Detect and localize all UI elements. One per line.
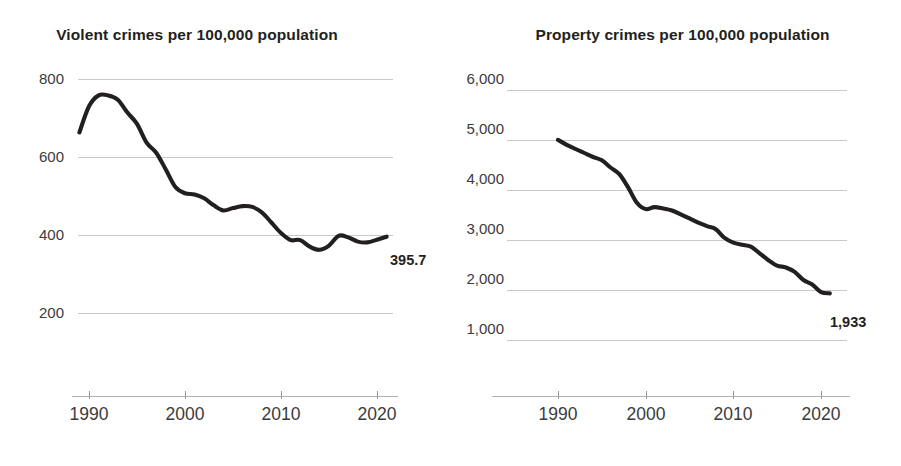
violent-crimes-plot: 800 600 400 200 1990 2000 2010 2020 395.… [0,0,450,466]
ytick-labels-violent: 800 600 400 200 [39,70,64,321]
gridlines-property [507,90,847,340]
xtick-label-2020: 2020 [802,404,841,424]
panel-violent-crimes: Violent crimes per 100,000 population 80… [0,0,450,466]
xtick-label-1990: 1990 [539,404,578,424]
violent-crime-line [79,94,386,249]
xtick-label-2000: 2000 [627,404,666,424]
xtick-label-2000: 2000 [166,404,205,424]
ytick-label-3000: 3,000 [466,220,504,237]
ytick-label-6000: 6,000 [466,70,504,87]
ytick-label-5000: 5,000 [466,120,504,137]
property-crimes-plot: 6,000 5,000 4,000 3,000 2,000 1,000 1990… [450,0,901,466]
xtick-label-1990: 1990 [70,404,109,424]
ytick-label-200: 200 [39,304,64,321]
ytick-label-800: 800 [39,70,64,87]
xtick-label-2020: 2020 [358,404,397,424]
ytick-labels-property: 6,000 5,000 4,000 3,000 2,000 1,000 [466,70,504,337]
xaxis-violent [72,391,398,399]
xtick-labels-violent: 1990 2000 2010 2020 [70,404,397,424]
ytick-label-4000: 4,000 [466,170,504,187]
ytick-label-600: 600 [39,148,64,165]
panel-property-crimes: Property crimes per 100,000 population 6… [450,0,901,466]
endpoint-label-violent: 395.7 [390,252,426,268]
xtick-label-2010: 2010 [714,404,753,424]
property-crime-line [558,140,830,294]
crime-rate-figure: Violent crimes per 100,000 population 80… [0,0,901,466]
ytick-label-400: 400 [39,226,64,243]
endpoint-label-property: 1,933 [830,314,866,330]
gridlines-violent [78,79,393,313]
xtick-label-2010: 2010 [262,404,301,424]
xtick-labels-property: 1990 2000 2010 2020 [539,404,841,424]
ytick-label-2000: 2,000 [466,270,504,287]
xaxis-property [492,391,850,399]
ytick-label-1000: 1,000 [466,320,504,337]
